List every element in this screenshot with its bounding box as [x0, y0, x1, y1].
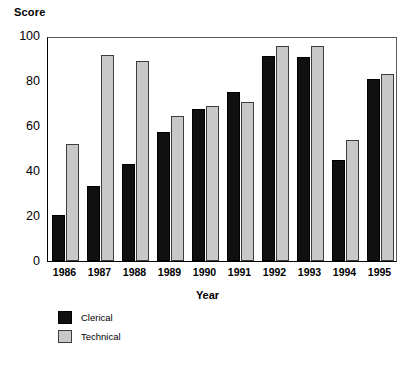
- bar-clerical-1994: [332, 160, 345, 261]
- plot-area: [48, 38, 396, 261]
- x-axis-tick-label: 1995: [360, 266, 400, 278]
- x-axis-tick-label: 1994: [325, 266, 365, 278]
- x-axis-tick-label: 1990: [185, 266, 225, 278]
- bar-technical-1990: [206, 106, 219, 261]
- chart-legend: ClericalTechnical: [58, 308, 121, 346]
- x-axis-tick-label: 1991: [220, 266, 260, 278]
- x-axis-tick-label: 1989: [150, 266, 190, 278]
- bar-clerical-1991: [227, 92, 240, 261]
- bar-clerical-1989: [157, 132, 170, 261]
- bar-technical-1993: [311, 46, 324, 261]
- bar-chart: Score 020406080100 198619871988198919901…: [0, 0, 415, 365]
- bar-clerical-1986: [52, 215, 65, 261]
- legend-label: Technical: [81, 331, 121, 342]
- bar-clerical-1988: [122, 164, 135, 261]
- y-axis-tick-labels: 020406080100: [0, 0, 44, 365]
- bar-clerical-1993: [297, 57, 310, 261]
- bar-technical-1994: [346, 140, 359, 262]
- bar-technical-1987: [101, 55, 114, 261]
- y-axis-tick-label: 100: [0, 29, 40, 43]
- bar-clerical-1990: [192, 109, 205, 261]
- x-axis-title: Year: [0, 289, 415, 301]
- x-axis-tick-label: 1993: [290, 266, 330, 278]
- x-axis-tick-label: 1988: [115, 266, 155, 278]
- legend-item: Clerical: [58, 308, 121, 327]
- bar-technical-1992: [276, 46, 289, 261]
- bar-clerical-1987: [87, 186, 100, 261]
- legend-swatch-clerical: [58, 311, 72, 324]
- bar-clerical-1992: [262, 56, 275, 261]
- x-axis-tick-label: 1986: [45, 266, 85, 278]
- legend-label: Clerical: [81, 312, 113, 323]
- bar-technical-1989: [171, 116, 184, 261]
- bar-technical-1991: [241, 102, 254, 261]
- y-axis-tick-label: 80: [0, 74, 40, 88]
- x-axis-tick-label: 1987: [80, 266, 120, 278]
- bar-technical-1986: [66, 144, 79, 261]
- y-axis-tick-label: 20: [0, 209, 40, 223]
- bar-technical-1995: [381, 74, 394, 261]
- legend-swatch-technical: [58, 330, 72, 343]
- bar-clerical-1995: [367, 79, 380, 261]
- legend-item: Technical: [58, 327, 121, 346]
- bar-technical-1988: [136, 61, 149, 261]
- x-axis-tick-label: 1992: [255, 266, 295, 278]
- y-axis-tick-label: 40: [0, 164, 40, 178]
- plot-frame: [47, 37, 397, 262]
- y-axis-tick-label: 0: [0, 254, 40, 268]
- y-axis-tick-label: 60: [0, 119, 40, 133]
